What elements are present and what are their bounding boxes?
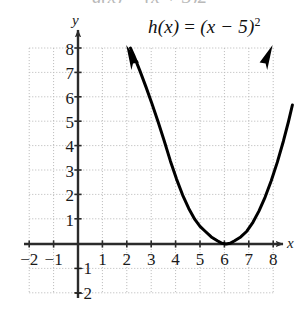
y-axis-label: y <box>72 13 79 28</box>
y-tick-label: −1 <box>70 260 92 277</box>
x-tick-label: 1 <box>91 251 113 268</box>
y-tick-label: 3 <box>52 163 74 180</box>
curve-arrowheads <box>126 45 272 70</box>
right-branch-arrowhead <box>260 45 273 70</box>
x-tick-label: 6 <box>213 251 235 268</box>
y-tick-label: 7 <box>52 65 74 82</box>
y-tick-label: 6 <box>52 90 74 107</box>
y-tick-label: 1 <box>52 212 74 229</box>
x-tick-label: −1 <box>43 251 65 268</box>
y-tick-label: 2 <box>52 187 74 204</box>
equation-equals: = <box>184 16 200 37</box>
x-tick-label: −2 <box>18 251 40 268</box>
x-tick-label: 5 <box>189 251 211 268</box>
y-tick-label: 5 <box>52 114 74 131</box>
x-tick-label: 3 <box>140 251 162 268</box>
equation-body: (x − 5) <box>200 16 254 37</box>
y-tick-label: −2 <box>70 285 92 302</box>
parabola-graph-figure: g(x) = (x + 3)2 <box>0 0 306 311</box>
x-axis-label: x <box>287 236 294 251</box>
parabola-curve <box>130 48 292 244</box>
equation-exponent: 2 <box>255 15 261 29</box>
y-tick-label: 4 <box>52 138 74 155</box>
x-tick-label: 4 <box>165 251 187 268</box>
x-tick-label: 7 <box>238 251 260 268</box>
y-tick-label: 8 <box>52 41 74 58</box>
equation-prefix: h(x) <box>148 16 184 37</box>
x-tick-label: 8 <box>262 251 284 268</box>
function-equation-label: h(x) = (x − 5)2 <box>148 16 261 36</box>
parabola-path <box>130 48 292 244</box>
x-tick-label: 2 <box>116 251 138 268</box>
